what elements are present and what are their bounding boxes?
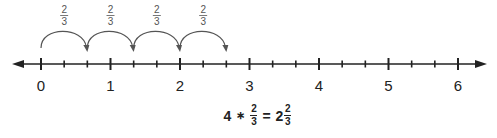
tick-label: 4	[315, 77, 323, 94]
jump-arc	[134, 31, 179, 48]
fraction-numerator: 2	[251, 104, 257, 114]
fraction-denominator: 3	[251, 117, 257, 127]
jump-label-denominator: 3	[200, 16, 206, 27]
jump-arc	[87, 31, 132, 48]
jump-arrowhead-icon	[83, 45, 89, 52]
equation-equals: =	[262, 108, 270, 124]
jump-label-numerator: 2	[108, 4, 114, 15]
jump-arrowhead-icon	[222, 45, 228, 52]
tick-label: 2	[176, 77, 184, 94]
jump-label-numerator: 2	[154, 4, 160, 15]
tick-label: 3	[245, 77, 253, 94]
equation-multiplier: 4	[224, 108, 232, 124]
result-denominator: 3	[285, 117, 291, 127]
tick-label: 1	[106, 77, 114, 94]
jump-label-denominator: 3	[108, 16, 114, 27]
jump-label-denominator: 3	[61, 16, 67, 27]
tick-label: 6	[454, 77, 462, 94]
jump-arrowhead-icon	[176, 45, 182, 52]
right-arrow-icon	[475, 60, 487, 68]
equation-result: 2 2 3	[276, 104, 292, 127]
jump-label-numerator: 2	[61, 4, 67, 15]
jump-arc	[41, 31, 86, 48]
result-whole: 2	[276, 108, 284, 124]
tick-label: 5	[384, 77, 392, 94]
jump-arrowhead-icon	[130, 45, 136, 52]
equation-operator: ∗	[236, 109, 245, 122]
equation: 4 ∗ 2 3 = 2 2 3	[0, 104, 497, 127]
jump-label-numerator: 2	[200, 4, 206, 15]
equation-fraction: 2 3	[250, 104, 257, 127]
tick-label: 0	[37, 77, 45, 94]
jump-label-denominator: 3	[154, 16, 160, 27]
left-arrow-icon	[12, 60, 24, 68]
jump-arc	[180, 31, 225, 48]
result-fraction: 2 3	[284, 104, 291, 127]
result-numerator: 2	[285, 104, 291, 114]
